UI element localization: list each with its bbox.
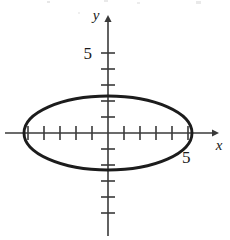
x-axis-label: x (215, 137, 223, 153)
x-axis-arrow-icon (212, 129, 219, 136)
x-axis (5, 129, 219, 136)
y-axis-label: y (91, 7, 100, 23)
ellipse-graph-figure: y x 5 5 (0, 0, 230, 240)
coordinate-plane-svg: y x 5 5 (0, 0, 230, 240)
y-axis-tick-label-5: 5 (84, 44, 93, 63)
scan-artifact-smudges (47, 0, 201, 14)
x-axis-tick-label-5: 5 (182, 148, 191, 167)
y-axis-arrow-icon (104, 15, 111, 22)
y-axis (104, 15, 111, 236)
